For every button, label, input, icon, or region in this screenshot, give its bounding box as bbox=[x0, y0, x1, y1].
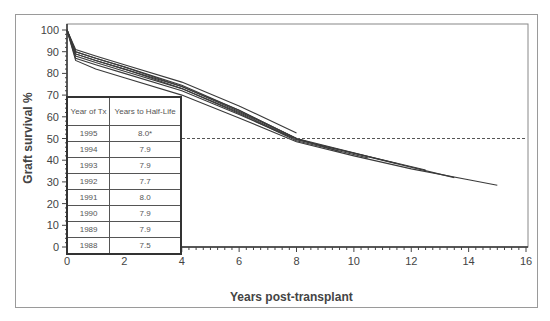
year-of-tx-cell: 1994 bbox=[67, 142, 110, 158]
table-row: 19887.5 bbox=[67, 238, 181, 255]
year-of-tx-cell: 1993 bbox=[67, 158, 110, 174]
x-tick-label: 16 bbox=[520, 255, 532, 267]
table-row: 19918.0 bbox=[67, 190, 181, 206]
half-life-cell: 8.0* bbox=[110, 126, 181, 142]
year-of-tx-cell: 1989 bbox=[67, 222, 110, 238]
y-tick-label: 10 bbox=[35, 219, 59, 231]
table-row: 19947.9 bbox=[67, 142, 181, 158]
half-life-cell: 7.9 bbox=[110, 206, 181, 222]
x-axis-label: Years post-transplant bbox=[230, 290, 353, 304]
year-of-tx-cell: 1991 bbox=[67, 190, 110, 206]
y-tick-label: 80 bbox=[35, 67, 59, 79]
y-tick-label: 50 bbox=[35, 133, 59, 145]
y-axis-label: Graft survival % bbox=[21, 92, 35, 183]
y-tick-label: 30 bbox=[35, 176, 59, 188]
x-tick-label: 2 bbox=[121, 255, 127, 267]
half-life-table: Year of Tx Years to Half-Life 19958.0*19… bbox=[66, 96, 182, 255]
half-life-cell: 7.9 bbox=[110, 222, 181, 238]
table-row: 19958.0* bbox=[67, 126, 181, 142]
y-tick-label: 90 bbox=[35, 46, 59, 58]
x-tick-label: 10 bbox=[348, 255, 360, 267]
half-life-cell: 8.0 bbox=[110, 190, 181, 206]
table-row: 19897.9 bbox=[67, 222, 181, 238]
year-of-tx-cell: 1988 bbox=[67, 238, 110, 255]
y-tick-label: 70 bbox=[35, 89, 59, 101]
year-of-tx-cell: 1990 bbox=[67, 206, 110, 222]
year-of-tx-cell: 1995 bbox=[67, 126, 110, 142]
x-tick-label: 14 bbox=[463, 255, 475, 267]
x-tick-label: 4 bbox=[179, 255, 185, 267]
table-header-half-life: Years to Half-Life bbox=[110, 97, 181, 126]
y-tick-label: 100 bbox=[35, 24, 59, 36]
half-life-cell: 7.9 bbox=[110, 142, 181, 158]
y-tick-label: 40 bbox=[35, 154, 59, 166]
x-tick-label: 0 bbox=[64, 255, 70, 267]
y-tick-label: 0 bbox=[35, 241, 59, 253]
table-row: 19907.9 bbox=[67, 206, 181, 222]
table-header-year: Year of Tx bbox=[67, 97, 110, 126]
table-row: 19927.7 bbox=[67, 174, 181, 190]
x-tick-label: 12 bbox=[405, 255, 417, 267]
y-tick-label: 20 bbox=[35, 198, 59, 210]
half-life-cell: 7.5 bbox=[110, 238, 181, 255]
y-tick-label: 60 bbox=[35, 111, 59, 123]
year-of-tx-cell: 1992 bbox=[67, 174, 110, 190]
table-body: 19958.0*19947.919937.919927.719918.01990… bbox=[67, 126, 181, 255]
x-tick-label: 8 bbox=[293, 255, 299, 267]
x-tick-label: 6 bbox=[236, 255, 242, 267]
half-life-cell: 7.9 bbox=[110, 158, 181, 174]
table-row: 19937.9 bbox=[67, 158, 181, 174]
half-life-cell: 7.7 bbox=[110, 174, 181, 190]
